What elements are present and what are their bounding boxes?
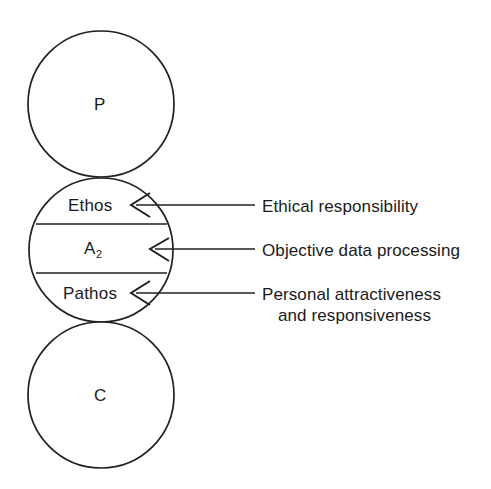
ethos-segment-label: Ethos xyxy=(68,197,112,214)
child-circle-label: C xyxy=(94,387,106,404)
callout-label-objective-data-processing: Objective data processing xyxy=(262,240,460,261)
adult-core-segment-label: A2 xyxy=(84,240,102,257)
callout-label-personal-attractiveness: Personal attractivenessand responsivenes… xyxy=(262,284,441,326)
parent-circle-label: P xyxy=(94,96,106,113)
callout-line-2: and responsiveness xyxy=(262,305,441,326)
adult-core-letter: A xyxy=(84,239,96,258)
pathos-segment-label: Pathos xyxy=(63,285,117,302)
diagram-canvas: P C Ethos A2 Pathos Ethical responsibili… xyxy=(0,0,491,489)
callout-line-1: Personal attractiveness xyxy=(262,285,441,304)
callout-label-ethical-responsibility: Ethical responsibility xyxy=(262,196,418,217)
adult-core-subscript: 2 xyxy=(96,248,102,260)
